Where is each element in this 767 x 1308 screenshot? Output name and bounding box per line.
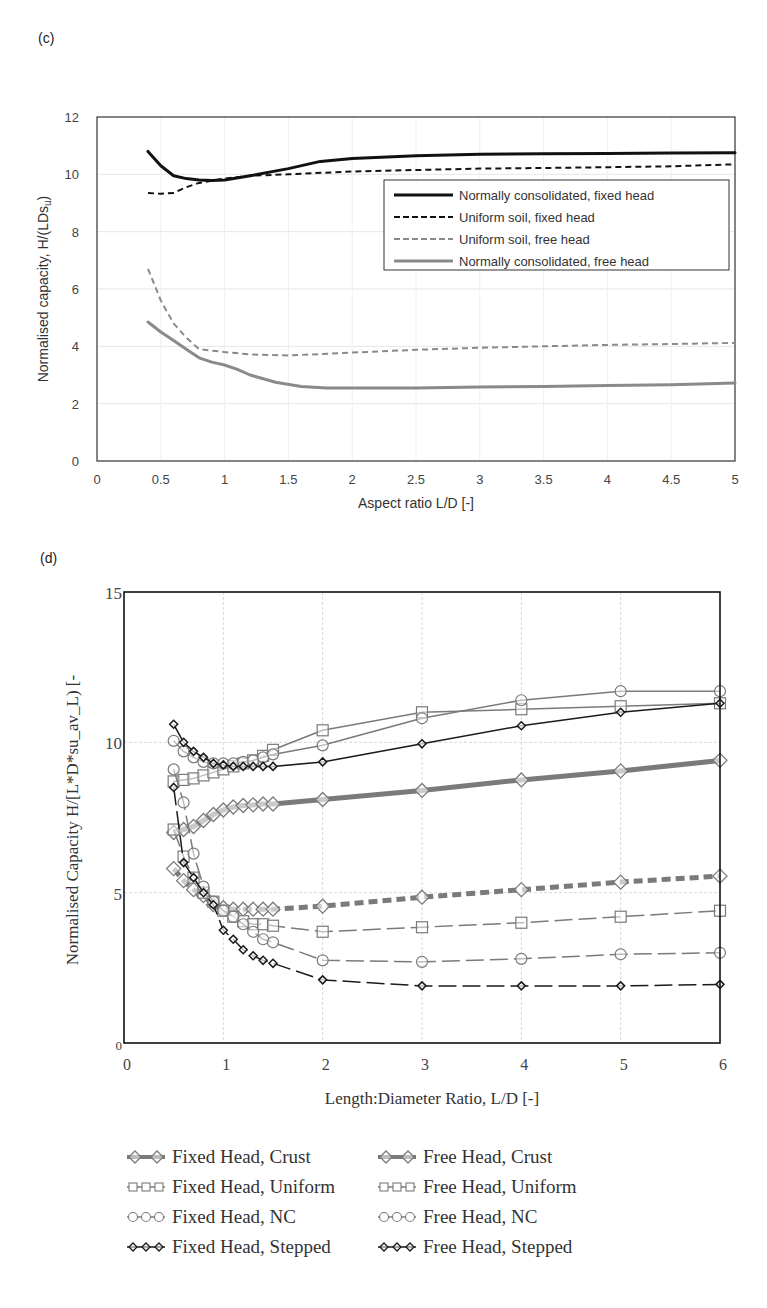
legend-marker-diamond bbox=[142, 1243, 150, 1251]
panel-d-series bbox=[167, 686, 727, 990]
x-tick-label: 6 bbox=[719, 1056, 727, 1073]
data-point bbox=[266, 797, 280, 811]
legend-marker-circle bbox=[129, 1213, 138, 1222]
data-point bbox=[269, 959, 277, 967]
legend-marker-diamond bbox=[406, 1243, 414, 1251]
x-tick-label: 1 bbox=[222, 1056, 230, 1073]
x-tick-label: 1 bbox=[221, 472, 228, 487]
panel-d-x-axis-label: Length:Diameter Ratio, L/D [-] bbox=[325, 1089, 539, 1108]
legend-item-free-head-stepped: Free Head, Stepped bbox=[378, 1236, 573, 1257]
data-point bbox=[258, 934, 269, 945]
legend-label-uniform-soil-fixed-head: Uniform soil, fixed head bbox=[459, 210, 595, 225]
legend-marker-square bbox=[393, 1183, 401, 1191]
panel-d-y-ticks: 051015 bbox=[105, 584, 122, 1053]
legend-label-normally-consolidated-fixed-head: Normally consolidated, fixed head bbox=[459, 188, 654, 203]
legend-item-fixed-head-crust: Fixed Head, Crust bbox=[127, 1146, 312, 1167]
data-point bbox=[268, 749, 279, 760]
legend-label: Fixed Head, Crust bbox=[172, 1146, 312, 1167]
legend-label: Free Head, Uniform bbox=[423, 1176, 577, 1197]
data-point bbox=[514, 773, 528, 787]
y-tick-label: 8 bbox=[72, 225, 79, 240]
data-point bbox=[517, 722, 525, 730]
x-tick-label: 2.5 bbox=[407, 472, 425, 487]
data-point bbox=[259, 762, 267, 770]
panel-c-x-axis-label: Aspect ratio L/D [-] bbox=[358, 495, 474, 511]
panel-c-y-axis-label-main: Normalised capacity, H/(LDs bbox=[35, 206, 51, 382]
series-line-normally-consolidated-free-head bbox=[148, 322, 735, 388]
data-point bbox=[259, 956, 267, 964]
data-point bbox=[168, 764, 179, 775]
data-point bbox=[417, 922, 428, 933]
legend-label: Fixed Head, NC bbox=[172, 1206, 296, 1227]
y-tick-label: 10 bbox=[105, 734, 122, 753]
data-point bbox=[517, 982, 525, 990]
legend-marker-diamond bbox=[393, 1243, 401, 1251]
panel-c-y-ticks: 024681012 bbox=[65, 110, 79, 469]
data-point bbox=[258, 752, 269, 763]
legend-marker-diamond bbox=[129, 1243, 137, 1251]
legend-marker-diamond bbox=[151, 1151, 163, 1163]
legend-marker-square bbox=[406, 1183, 414, 1191]
x-tick-label: 1.5 bbox=[279, 472, 297, 487]
series-free-head-crust bbox=[167, 862, 727, 917]
legend-label: Free Head, Crust bbox=[423, 1146, 553, 1167]
legend-marker-diamond bbox=[380, 1151, 392, 1163]
data-point bbox=[188, 848, 199, 859]
data-point bbox=[268, 937, 279, 948]
panel-c-x-ticks: 00.511.522.533.544.55 bbox=[93, 472, 738, 487]
x-tick-label: 0 bbox=[123, 1056, 131, 1073]
data-point bbox=[168, 824, 179, 835]
data-point bbox=[418, 740, 426, 748]
series-free-head-nc bbox=[168, 764, 725, 967]
y-tick-label: 12 bbox=[65, 110, 79, 125]
x-tick-label: 0 bbox=[93, 472, 100, 487]
data-point bbox=[514, 883, 528, 897]
legend-marker-square bbox=[129, 1183, 137, 1191]
x-tick-label: 5 bbox=[620, 1056, 628, 1073]
legend-marker-circle bbox=[142, 1213, 151, 1222]
data-point bbox=[317, 740, 328, 751]
legend-item-free-head-uniform: Free Head, Uniform bbox=[378, 1176, 577, 1197]
panel-d-y-axis-label: Normalised Capacity H/[L*D*su_av_L) [- bbox=[63, 674, 82, 965]
data-point bbox=[316, 899, 330, 913]
series-line-uniform-soil-free-head bbox=[148, 269, 735, 356]
legend-label: Fixed Head, Uniform bbox=[172, 1176, 335, 1197]
data-point bbox=[317, 955, 328, 966]
y-tick-label: 5 bbox=[114, 885, 123, 904]
panel-d-x-ticks: 0123456 bbox=[123, 1056, 727, 1073]
legend-marker-diamond bbox=[380, 1243, 388, 1251]
panel-c-legend: Normally consolidated, fixed headUniform… bbox=[384, 180, 729, 270]
y-tick-label: 10 bbox=[65, 167, 79, 182]
x-tick-label: 5 bbox=[731, 472, 738, 487]
data-point bbox=[417, 713, 428, 724]
legend-item-fixed-head-stepped: Fixed Head, Stepped bbox=[127, 1236, 331, 1257]
x-tick-label: 0.5 bbox=[152, 472, 170, 487]
panel-d-legend: Fixed Head, CrustFree Head, CrustFixed H… bbox=[127, 1146, 577, 1257]
x-tick-label: 2 bbox=[349, 472, 356, 487]
panel-c-label: (c) bbox=[38, 30, 54, 46]
data-point bbox=[614, 764, 628, 778]
panel-c-gridlines bbox=[97, 117, 735, 461]
data-point bbox=[614, 875, 628, 889]
data-point bbox=[168, 735, 179, 746]
data-point bbox=[178, 746, 189, 757]
data-point bbox=[617, 982, 625, 990]
x-tick-label: 4 bbox=[604, 472, 611, 487]
y-tick-label: 0 bbox=[72, 454, 79, 469]
y-tick-label: 15 bbox=[105, 584, 122, 603]
x-tick-label: 4.5 bbox=[662, 472, 680, 487]
legend-label: Free Head, Stepped bbox=[423, 1236, 573, 1257]
legend-item-free-head-nc: Free Head, NC bbox=[378, 1206, 538, 1227]
legend-item-fixed-head-uniform: Fixed Head, Uniform bbox=[127, 1176, 335, 1197]
legend-item-free-head-crust: Free Head, Crust bbox=[378, 1146, 553, 1167]
data-point bbox=[615, 911, 626, 922]
legend-label: Fixed Head, Stepped bbox=[172, 1236, 331, 1257]
data-point bbox=[268, 920, 279, 931]
data-point bbox=[266, 902, 280, 916]
data-point bbox=[170, 720, 178, 728]
data-point bbox=[249, 952, 257, 960]
legend-marker-circle bbox=[406, 1213, 415, 1222]
panel-d-chart: (d) 051015 0123456 Length:Diameter Ratio… bbox=[40, 550, 727, 1257]
panel-c-y-axis-label: Normalised capacity, H/(LDsu) bbox=[35, 196, 53, 383]
panel-c-y-axis-label-end: ) bbox=[35, 196, 51, 201]
